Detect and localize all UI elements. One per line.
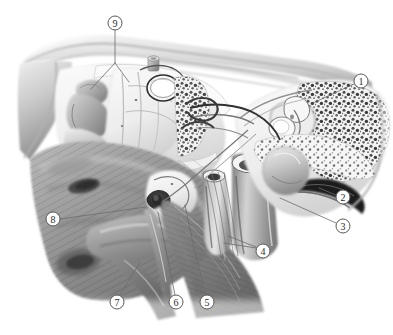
callout-7[interactable]: 7: [110, 295, 124, 309]
anatomy-illustration: 1 2 3 4 5 6 7: [0, 0, 393, 335]
anatomy-figure: 1 2 3 4 5 6 7: [0, 0, 393, 335]
callout-2[interactable]: 2: [336, 190, 350, 204]
callout-label-9: 9: [113, 18, 118, 29]
callout-label-3: 3: [341, 221, 346, 232]
callout-label-4: 4: [261, 246, 266, 257]
callout-6[interactable]: 6: [169, 295, 183, 309]
callout-label-1: 1: [359, 76, 364, 87]
callout-label-6: 6: [174, 297, 179, 308]
sphenoid-stub: [148, 56, 159, 71]
callout-label-5: 5: [205, 297, 210, 308]
callout-label-8: 8: [51, 214, 56, 225]
callout-9[interactable]: 9: [108, 16, 122, 30]
callout-3[interactable]: 3: [336, 219, 350, 233]
callout-1[interactable]: 1: [354, 74, 368, 88]
tympanic-membrane: [263, 147, 309, 195]
callout-label-2: 2: [341, 192, 346, 203]
callout-8[interactable]: 8: [46, 212, 60, 226]
callout-5[interactable]: 5: [200, 295, 214, 309]
callout-label-7: 7: [115, 297, 120, 308]
callout-4[interactable]: 4: [256, 244, 270, 258]
